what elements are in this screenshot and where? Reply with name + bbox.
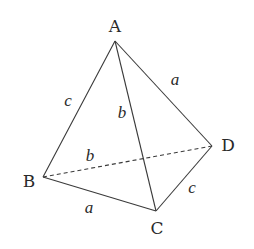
- vertex-label-B: B: [23, 171, 36, 191]
- edge-CD: [156, 146, 212, 211]
- edge-AD: [115, 41, 212, 146]
- edge-label-AB: c: [64, 91, 72, 110]
- vertex-label-D: D: [221, 135, 235, 155]
- edge-label-BC: a: [85, 198, 94, 217]
- edge-BC: [43, 177, 156, 211]
- edge-labels: c b a b a c: [64, 70, 196, 217]
- vertex-label-A: A: [108, 16, 122, 36]
- edge-BD-hidden: [43, 146, 212, 177]
- edge-label-AC: b: [118, 103, 127, 122]
- edge-label-BD: b: [86, 146, 95, 165]
- edge-AB: [43, 41, 115, 177]
- vertex-label-C: C: [150, 218, 163, 238]
- edge-AC: [115, 41, 156, 211]
- tetrahedron-diagram: A B C D c b a b a c: [0, 0, 254, 249]
- edge-label-AD: a: [171, 70, 180, 89]
- edge-label-CD: c: [188, 178, 196, 197]
- vertex-labels: A B C D: [23, 16, 235, 238]
- edges: [43, 41, 212, 211]
